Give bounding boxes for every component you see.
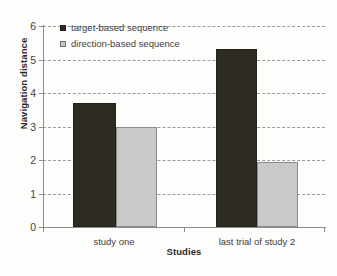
bar-chart-figure: Navigation distance 0 1 2 3 4 5 6 — [0, 0, 337, 276]
gridline-4 — [43, 93, 325, 94]
legend-label-direction: direction-based sequence — [71, 38, 180, 49]
legend-swatch-light-icon — [60, 41, 66, 47]
y-tick-label-3: 3 — [30, 121, 36, 133]
bar-direction-last-trial[interactable] — [257, 162, 298, 227]
y-axis-title: Navigation distance — [18, 9, 29, 159]
x-axis-line — [42, 227, 326, 228]
legend-item-direction[interactable]: direction-based sequence — [60, 38, 180, 49]
y-tick-label-0: 0 — [30, 221, 36, 233]
gridline-5 — [43, 60, 325, 61]
chart-legend: target-based sequence direction-based se… — [60, 22, 180, 49]
y-axis-line — [43, 25, 44, 228]
legend-swatch-dark-icon — [60, 25, 66, 31]
y-tick-label-1: 1 — [30, 188, 36, 200]
plot-area: 0 1 2 3 4 5 6 study one last trial of st… — [43, 26, 325, 227]
legend-label-target: target-based sequence — [71, 22, 168, 33]
legend-item-target[interactable]: target-based sequence — [60, 22, 180, 33]
bar-target-last-trial[interactable] — [216, 49, 257, 227]
y-tick-label-2: 2 — [30, 154, 36, 166]
bar-direction-study-one[interactable] — [116, 127, 157, 228]
y-tick-label-5: 5 — [30, 54, 36, 66]
y-tick-label-4: 4 — [30, 87, 36, 99]
x-axis-title: Studies — [43, 246, 325, 257]
bar-target-study-one[interactable] — [73, 103, 116, 227]
y-tick-label-6: 6 — [30, 20, 36, 32]
